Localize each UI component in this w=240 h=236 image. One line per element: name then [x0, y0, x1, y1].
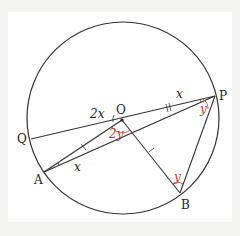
label-B: B — [181, 198, 190, 212]
center-point — [120, 118, 123, 121]
angle-label-QOA: 2x — [89, 107, 105, 121]
label-Q: Q — [17, 132, 27, 146]
label-A: A — [33, 173, 43, 187]
angle-label-OPB: y — [199, 102, 207, 116]
label-P: P — [219, 89, 227, 103]
angle-label-OAP: x — [74, 160, 81, 174]
angle-label-AOB: 2y — [108, 127, 124, 141]
geometry-figure: O P Q A B 2x x x 2y y y — [0, 0, 240, 236]
angle-label-OPQ: x — [176, 87, 183, 101]
angle-label-OBP: y — [173, 170, 181, 184]
label-O: O — [116, 103, 126, 117]
figure-background — [8, 12, 232, 222]
diagram-panel: O P Q A B 2x x x 2y y y — [0, 0, 240, 236]
